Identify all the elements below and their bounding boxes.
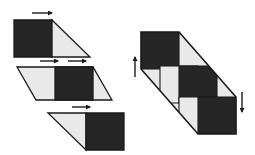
- panel4-cell-dark-top: [141, 32, 179, 69]
- panel-2: [17, 67, 112, 100]
- panel3-dark-square: [86, 113, 124, 150]
- panel4-cell-dark-bottom: [198, 97, 236, 134]
- panel-4: [141, 32, 236, 134]
- geometry-figure: [0, 0, 255, 155]
- panel-1: [14, 20, 90, 57]
- panel2-dark-square: [55, 67, 93, 100]
- panel4-cells: [141, 32, 236, 134]
- panel-3: [48, 113, 124, 150]
- figure-canvas: [0, 0, 255, 155]
- panel3-light-triangle: [48, 113, 86, 150]
- panel1-light-triangle: [52, 20, 90, 57]
- panel1-dark-square: [14, 20, 52, 57]
